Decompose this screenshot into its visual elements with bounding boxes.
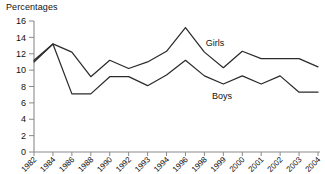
y-tick-label: 6 (21, 98, 26, 108)
y-tick-label: 0 (21, 147, 26, 157)
chart-plot-area: 0246810121416 19821984198619881990199219… (0, 0, 325, 174)
x-tick-label: 2001 (247, 155, 266, 174)
x-tick-label: 1984 (38, 155, 57, 174)
x-tick-label: 1994 (152, 155, 171, 174)
y-axis-group: 0246810121416 (16, 16, 34, 157)
y-tick-label: 12 (16, 49, 26, 59)
x-axis-group: 1982198419861988199019921993199419961998… (19, 152, 322, 174)
y-tick-label: 16 (16, 16, 26, 26)
x-tick-label: 2000 (228, 155, 247, 174)
x-tick-label: 1986 (57, 155, 76, 174)
series-line-girls (34, 28, 318, 77)
x-tick-label: 1990 (95, 155, 114, 174)
series-label-girls: Girls (206, 38, 225, 48)
series-annotation-group: GirlsBoys (206, 38, 233, 101)
x-tick-label: 1982 (19, 155, 38, 174)
x-tick-label: 1996 (171, 155, 190, 174)
y-tick-label: 10 (16, 65, 26, 75)
x-axis-tick-labels: 1982198419861988199019921993199419961998… (19, 155, 322, 174)
series-label-boys: Boys (212, 91, 233, 101)
x-axis-ticks (34, 152, 318, 156)
y-tick-label: 14 (16, 33, 26, 43)
y-axis-tick-labels: 0246810121416 (16, 16, 26, 157)
x-tick-label: 1993 (133, 155, 152, 174)
x-tick-label: 1992 (114, 155, 133, 174)
y-tick-label: 8 (21, 82, 26, 92)
y-tick-label: 2 (21, 131, 26, 141)
x-tick-label: 1998 (190, 155, 209, 174)
x-tick-label: 1999 (209, 155, 228, 174)
y-tick-label: 4 (21, 114, 26, 124)
series-line-boys (34, 44, 318, 94)
x-tick-label: 1988 (76, 155, 95, 174)
x-tick-label: 2002 (266, 155, 285, 174)
data-series-group (34, 28, 318, 94)
y-axis-ticks (29, 21, 34, 152)
x-tick-label: 2003 (285, 155, 304, 174)
x-tick-label: 2004 (303, 155, 322, 174)
line-chart: Percentages 0246810121416 19821984198619… (0, 0, 325, 174)
